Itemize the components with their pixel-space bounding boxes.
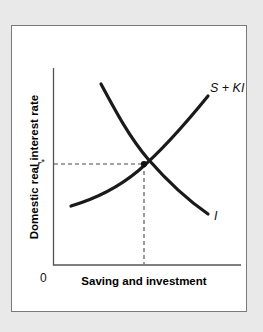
curve-saving-plus-capital-inflow bbox=[71, 96, 208, 206]
y-axis-title: Domestic real interest rate bbox=[28, 95, 40, 239]
curve-investment bbox=[101, 84, 208, 214]
x-axis-title: Saving and investment bbox=[81, 275, 206, 287]
figure-frame: S + KI I r* 0 Saving and investment Dome… bbox=[11, 25, 247, 312]
curve-label-investment: I bbox=[214, 209, 218, 223]
origin-label: 0 bbox=[40, 271, 47, 285]
equilibrium-rate-star: * bbox=[41, 157, 45, 167]
supply-demand-chart: S + KI I r* 0 Saving and investment Dome… bbox=[12, 26, 248, 313]
equilibrium-point-dot bbox=[141, 161, 147, 167]
curve-label-saving-plus-capital-inflow: S + KI bbox=[210, 81, 245, 95]
